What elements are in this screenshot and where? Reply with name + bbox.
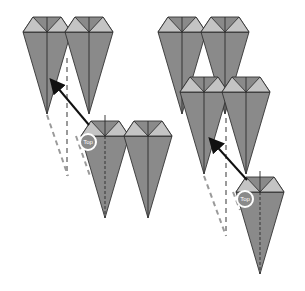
cone-unit bbox=[180, 77, 228, 174]
cone-unit bbox=[65, 17, 113, 114]
origami-diagram: Top Top bbox=[0, 0, 305, 291]
top-badge-label: Top bbox=[83, 139, 93, 145]
top-badge: Top bbox=[237, 191, 253, 207]
cone-pair-bottom-left bbox=[81, 115, 172, 218]
right-step: Top bbox=[158, 17, 284, 274]
top-badge-label: Top bbox=[240, 196, 250, 202]
cone-unit-inserting bbox=[81, 115, 129, 218]
diagram-canvas: Top Top bbox=[0, 0, 305, 291]
left-step: Top bbox=[23, 17, 172, 218]
cone-unit-inserting bbox=[236, 171, 284, 274]
cone-unit bbox=[23, 17, 71, 114]
cone-pair-middle-right bbox=[180, 77, 270, 174]
top-badge: Top bbox=[80, 134, 96, 150]
cone-bottom-right bbox=[236, 171, 284, 274]
cone-unit bbox=[124, 121, 172, 218]
